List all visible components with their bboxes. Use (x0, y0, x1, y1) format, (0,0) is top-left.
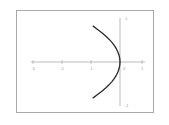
parabola-chart: -3 -2 -1 0 1 1 -1 (17, 11, 153, 112)
y-tick-label-pos1: 1 (125, 16, 128, 21)
figure-container: -3 -2 -1 0 1 1 -1 (0, 0, 169, 125)
x-tick-label-zero: 0 (123, 66, 126, 71)
x-tick-label-neg3: -3 (31, 66, 35, 71)
y-tick-label-neg1: -1 (125, 103, 129, 108)
plot-frame: -3 -2 -1 0 1 1 -1 (16, 10, 154, 113)
x-tick-label-neg1: -1 (89, 66, 93, 71)
x-tick-label-neg2: -2 (60, 66, 64, 71)
x-tick-label-pos1: 1 (141, 66, 144, 71)
